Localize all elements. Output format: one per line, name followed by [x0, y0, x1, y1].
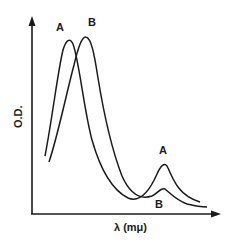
absorption-spectrum-diagram: A B A B O.D. λ (mμ)	[0, 0, 233, 244]
y-axis-arrow-icon	[29, 16, 36, 26]
x-axis-label: λ (mμ)	[114, 221, 147, 233]
small-peak-a-label: A	[159, 144, 167, 156]
peak-a-label: A	[56, 21, 64, 33]
curve-b	[49, 37, 207, 207]
small-peak-b-label: B	[155, 198, 163, 210]
y-axis-label: O.D.	[12, 105, 24, 128]
x-axis-arrow-icon	[211, 211, 221, 218]
peak-b-label: B	[88, 16, 96, 28]
